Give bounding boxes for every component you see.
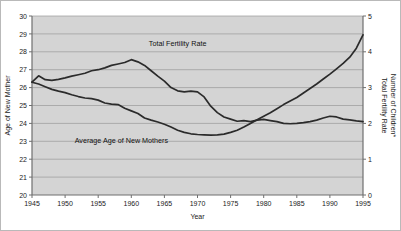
series-annotation-average-age-of-new-mothers: Average Age of New Mothers xyxy=(75,136,169,145)
right-axis-tick-label: 3 xyxy=(368,84,372,91)
left-axis-tick-label: 25 xyxy=(19,102,27,109)
x-axis-tick-label: 1990 xyxy=(322,200,338,207)
left-axis-tick-label: 23 xyxy=(19,138,27,145)
left-axis-tick-label: 30 xyxy=(19,13,27,20)
left-axis-tick-label: 28 xyxy=(19,48,27,55)
left-axis-tick-label: 26 xyxy=(19,84,27,91)
x-axis-tick-label: 1965 xyxy=(157,200,173,207)
x-axis-tick-label: 1975 xyxy=(223,200,239,207)
x-axis-tick-label: 1970 xyxy=(190,200,206,207)
x-axis-title: Year xyxy=(190,213,205,220)
x-axis-tick-label: 1985 xyxy=(289,200,305,207)
right-axis-tick-label: 1 xyxy=(368,156,372,163)
left-axis-tick-label: 21 xyxy=(19,174,27,181)
left-axis-tick-label: 29 xyxy=(19,31,27,38)
right-axis-title-line1: Total Fertility Rate xyxy=(380,77,388,133)
left-axis-tick-label: 27 xyxy=(19,66,27,73)
x-axis-tick-label: 1980 xyxy=(256,200,272,207)
right-axis-tick-label: 5 xyxy=(368,13,372,20)
x-axis-tick-label: 1950 xyxy=(57,200,73,207)
series-annotation-total-fertility-rate: Total Fertility Rate xyxy=(149,39,207,48)
right-axis-tick-label: 2 xyxy=(368,120,372,127)
dual-axis-line-chart: 2021222324252627282930012345194519501955… xyxy=(1,1,401,231)
right-axis-tick-label: 0 xyxy=(368,192,372,199)
left-axis-title: Age of New Mother xyxy=(4,75,12,136)
x-axis-tick-label: 1995 xyxy=(355,200,371,207)
left-axis-tick-label: 20 xyxy=(19,192,27,199)
x-axis-tick-label: 1960 xyxy=(124,200,140,207)
x-axis-tick-label: 1945 xyxy=(24,200,40,207)
left-axis-tick-label: 24 xyxy=(19,120,27,127)
chart-figure: 2021222324252627282930012345194519501955… xyxy=(0,0,401,231)
left-axis-tick-label: 22 xyxy=(19,156,27,163)
x-axis-tick-label: 1955 xyxy=(90,200,106,207)
right-axis-tick-label: 4 xyxy=(368,48,372,55)
right-axis-title-line2: Number of Children* xyxy=(390,74,397,138)
